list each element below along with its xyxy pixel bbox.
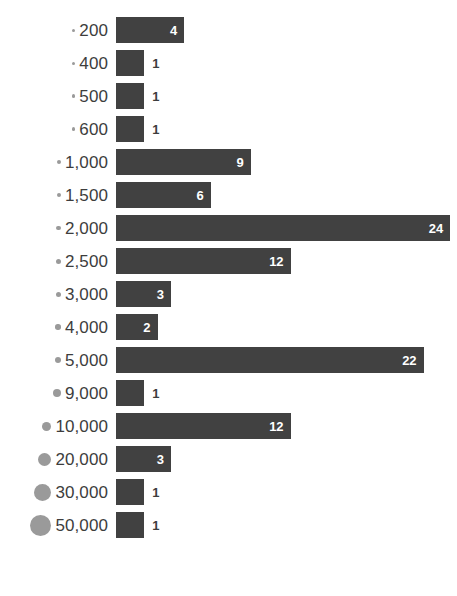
bar-cell: 24 — [116, 215, 450, 241]
chart-row: 3,0003 — [0, 281, 457, 307]
category-bullet-icon — [38, 453, 51, 466]
bar: 24 — [116, 215, 450, 241]
bar-cell: 9 — [116, 149, 251, 175]
bar-cell: 2 — [116, 314, 158, 340]
category-label-cell: 30,000 — [0, 484, 108, 501]
bar-value-label: 3 — [157, 288, 164, 301]
category-label-cell: 9,000 — [0, 385, 108, 402]
bar: 6 — [116, 182, 211, 208]
category-bullet-icon — [72, 62, 75, 65]
bar-value-label: 1 — [152, 123, 159, 136]
chart-row: 30,0001 — [0, 479, 457, 505]
bar — [116, 380, 144, 406]
chart-row: 10,00012 — [0, 413, 457, 439]
category-label: 4,000 — [65, 319, 108, 336]
chart-rows: 20044001500160011,00091,50062,000242,500… — [0, 17, 457, 545]
category-label-cell: 2,500 — [0, 253, 108, 270]
category-bullet-icon — [57, 160, 61, 164]
chart-row: 4001 — [0, 50, 457, 76]
category-bullet-icon — [30, 515, 51, 536]
chart-row: 2004 — [0, 17, 457, 43]
bar-cell: 22 — [116, 347, 424, 373]
category-label: 3,000 — [65, 286, 108, 303]
bar-cell: 3 — [116, 281, 171, 307]
category-label: 2,000 — [65, 220, 108, 237]
category-label-cell: 10,000 — [0, 418, 108, 435]
chart-row: 5,00022 — [0, 347, 457, 373]
category-label: 600 — [79, 121, 108, 138]
category-label: 400 — [79, 55, 108, 72]
bar-value-label: 9 — [236, 156, 243, 169]
category-label: 10,000 — [55, 418, 108, 435]
chart-row: 20,0003 — [0, 446, 457, 472]
bar — [116, 116, 144, 142]
bar-value-label: 12 — [269, 255, 283, 268]
bar — [116, 479, 144, 505]
bar-value-label: 6 — [197, 189, 204, 202]
category-bullet-icon — [57, 193, 61, 197]
category-bullet-icon — [34, 484, 51, 501]
bar-value-label: 24 — [429, 222, 443, 235]
bar — [116, 50, 144, 76]
category-label-cell: 500 — [0, 88, 108, 105]
bar: 3 — [116, 446, 171, 472]
bar-value-label: 1 — [152, 57, 159, 70]
category-label-cell: 600 — [0, 121, 108, 138]
bar: 3 — [116, 281, 171, 307]
category-label-cell: 50,000 — [0, 515, 108, 536]
category-label-cell: 3,000 — [0, 286, 108, 303]
bar-value-label: 1 — [152, 486, 159, 499]
chart-row: 2,00024 — [0, 215, 457, 241]
chart-row: 4,0002 — [0, 314, 457, 340]
category-label-cell: 1,500 — [0, 187, 108, 204]
bar-cell: 1 — [116, 479, 160, 505]
bar-value-label: 3 — [157, 453, 164, 466]
bar-value-label: 2 — [143, 321, 150, 334]
category-label: 500 — [79, 88, 108, 105]
chart-row: 1,5006 — [0, 182, 457, 208]
chart-row: 9,0001 — [0, 380, 457, 406]
category-label: 5,000 — [65, 352, 108, 369]
category-label: 9,000 — [65, 385, 108, 402]
category-bullet-icon — [72, 29, 75, 32]
bar-value-label: 4 — [170, 24, 177, 37]
category-label: 200 — [79, 22, 108, 39]
chart-row: 2,50012 — [0, 248, 457, 274]
category-label-cell: 5,000 — [0, 352, 108, 369]
category-label: 50,000 — [55, 517, 108, 534]
bar — [116, 83, 144, 109]
bar-cell: 3 — [116, 446, 171, 472]
category-bullet-icon — [42, 422, 51, 431]
chart-row: 6001 — [0, 116, 457, 142]
category-bullet-icon — [72, 127, 76, 131]
category-label-cell: 200 — [0, 22, 108, 39]
category-bullet-icon — [56, 226, 61, 231]
bar-value-label: 12 — [269, 420, 283, 433]
bar: 12 — [116, 413, 291, 439]
bar-cell: 1 — [116, 380, 160, 406]
category-label: 30,000 — [55, 484, 108, 501]
category-bullet-icon — [56, 259, 61, 264]
bar-cell: 1 — [116, 116, 160, 142]
category-label: 1,500 — [65, 187, 108, 204]
bar: 9 — [116, 149, 251, 175]
category-label: 2,500 — [65, 253, 108, 270]
category-bullet-icon — [72, 94, 76, 98]
bar-cell: 1 — [116, 512, 160, 538]
category-label-cell: 1,000 — [0, 154, 108, 171]
category-bullet-icon — [53, 389, 61, 397]
chart-row: 5001 — [0, 83, 457, 109]
category-bullet-icon — [56, 292, 61, 297]
bar: 12 — [116, 248, 291, 274]
bar-cell: 4 — [116, 17, 184, 43]
bar-cell: 6 — [116, 182, 211, 208]
category-bullet-icon — [55, 357, 61, 363]
bar: 22 — [116, 347, 424, 373]
bar-cell: 1 — [116, 50, 160, 76]
bar-cell: 12 — [116, 248, 291, 274]
category-label-cell: 4,000 — [0, 319, 108, 336]
bar: 4 — [116, 17, 184, 43]
bar-value-label: 1 — [152, 90, 159, 103]
chart-row: 1,0009 — [0, 149, 457, 175]
bar-value-label: 1 — [152, 387, 159, 400]
